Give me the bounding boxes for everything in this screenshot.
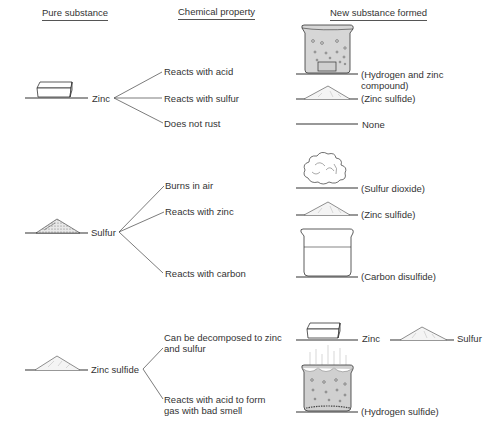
- product-sulfur-dioxide: (Sulfur dioxide): [361, 183, 425, 194]
- sulfur-pile-icon: [25, 219, 88, 233]
- zinc-connectors: [114, 72, 163, 123]
- product-hydrogen-zinc-line2: compound): [361, 80, 409, 91]
- property-decompose-line2: and sulfur: [164, 343, 206, 354]
- property-acid-gas-line2: gas with bad smell: [164, 405, 242, 416]
- product-none: None: [362, 119, 385, 130]
- product-carbon-disulfide: (Carbon disulfide): [361, 271, 436, 282]
- property-zinc-sulfur: Reacts with sulfur: [164, 93, 239, 104]
- beaker-bubbling-icon: [296, 25, 358, 74]
- zinc-sulfide-pile-icon-2: [296, 202, 358, 215]
- property-zinc-rust: Does not rust: [164, 118, 221, 129]
- zinc-product-block-icon: [296, 323, 358, 340]
- beaker-liquid-icon: [296, 229, 358, 277]
- property-zinc-acid: Reacts with acid: [164, 66, 233, 77]
- substance-sulfur: Sulfur: [91, 227, 116, 238]
- sulfur-connectors: [119, 186, 164, 273]
- property-sulfur-zinc: Reacts with zinc: [165, 206, 234, 217]
- product-hydrogen-sulfide: (Hydrogen sulfide): [361, 406, 439, 417]
- sulfur-product-pile-icon: [390, 327, 454, 340]
- property-sulfur-burns: Burns in air: [165, 180, 213, 191]
- product-sulfur: Sulfur: [457, 333, 482, 344]
- product-zinc-sulfide-2: (Zinc sulfide): [361, 209, 415, 220]
- zinc-block-icon: [25, 82, 88, 98]
- property-acid-gas-line1: Reacts with acid to form: [164, 394, 265, 405]
- beaker-gas-icon: [296, 345, 358, 412]
- product-zinc-sulfide-1: (Zinc sulfide): [361, 93, 415, 104]
- property-sulfur-carbon: Reacts with carbon: [165, 268, 246, 279]
- gas-cloud-icon: [296, 152, 358, 188]
- product-hydrogen-zinc-line1: (Hydrogen and zinc: [361, 69, 443, 80]
- property-decompose-line1: Can be decomposed to zinc: [164, 332, 282, 343]
- product-zinc: Zinc: [362, 333, 380, 344]
- substance-zinc-sulfide: Zinc sulfide: [91, 364, 139, 375]
- substance-zinc: Zinc: [92, 93, 110, 104]
- zinc-sulfide-connectors: [143, 348, 163, 399]
- zinc-sulfide-pile-icon: [296, 86, 358, 99]
- zinc-sulfide-pile-icon-3: [25, 356, 88, 370]
- diagram-artwork: [0, 0, 501, 440]
